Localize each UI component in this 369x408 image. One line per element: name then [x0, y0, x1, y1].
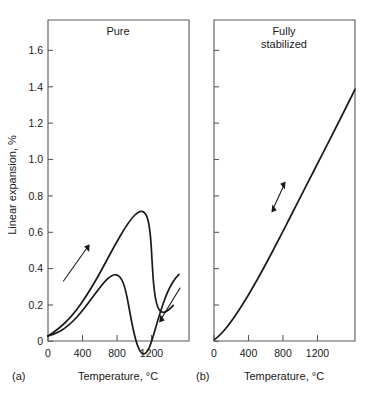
panel-b-x-label-400: 400 — [240, 347, 258, 359]
y-label-1-4: 1.4 — [28, 81, 43, 93]
panel-a: 1.6 1.4 1.2 1.0 0.8 0.6 0.4 0.2 0 0 400 — [6, 20, 189, 382]
panel-b-y-ticks — [214, 50, 219, 341]
panel-b-title-line2: stabilized — [261, 38, 307, 50]
y-label-1-0: 1.0 — [28, 153, 43, 165]
linear-expansion-chart: 1.6 1.4 1.2 1.0 0.8 0.6 0.4 0.2 0 0 400 — [0, 0, 369, 408]
y-label-0-4: 0.4 — [28, 262, 43, 274]
figure-root: 1.6 1.4 1.2 1.0 0.8 0.6 0.4 0.2 0 0 400 — [0, 0, 369, 408]
panel-b-x-axis-title: Temperature, °C — [244, 370, 324, 382]
panel-a-title: Pure — [106, 25, 129, 37]
y-label-1-6: 1.6 — [28, 44, 43, 56]
panel-b-expansion-curve — [215, 89, 356, 339]
panel-b-plot-frame — [214, 20, 355, 341]
y-axis-title: Linear expansion, % — [6, 135, 18, 235]
y-label-0-8: 0.8 — [28, 190, 43, 202]
panel-b-x-tick-labels: 0 400 800 1200 — [211, 347, 329, 359]
panel-b: 0 400 800 1200 Fully stabilized Temperat… — [196, 20, 355, 382]
y-label-1-2: 1.2 — [28, 117, 43, 129]
y-label-0-6: 0.6 — [28, 226, 43, 238]
panel-a-y-ticks — [48, 50, 53, 341]
reversible-arrow-icon — [271, 182, 285, 213]
x-label-800: 800 — [108, 347, 126, 359]
x-label-400: 400 — [74, 347, 92, 359]
panel-b-x-label-1200: 1200 — [306, 347, 330, 359]
y-label-0: 0 — [37, 335, 43, 347]
panel-a-cooling-curve — [48, 274, 179, 353]
panel-b-letter: (b) — [196, 370, 209, 382]
panel-a-y-tick-labels: 1.6 1.4 1.2 1.0 0.8 0.6 0.4 0.2 0 — [28, 44, 43, 347]
panel-a-letter: (a) — [12, 370, 25, 382]
panel-b-x-label-800: 800 — [274, 347, 292, 359]
panel-a-heating-curve — [48, 211, 173, 336]
heating-arrow-icon — [64, 244, 90, 281]
panel-a-x-axis-title: Temperature, °C — [78, 370, 158, 382]
panel-b-x-label-0: 0 — [211, 347, 217, 359]
y-label-0-2: 0.2 — [28, 299, 43, 311]
panel-b-x-ticks — [214, 335, 318, 341]
x-label-0: 0 — [45, 347, 51, 359]
panel-b-title-line1: Fully — [272, 25, 296, 37]
